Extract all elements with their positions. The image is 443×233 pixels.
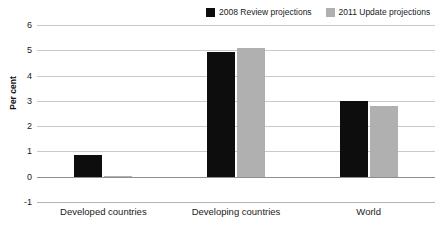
y-axis-tick-label: 3 bbox=[27, 96, 32, 106]
x-axis-category-label: Developed countries bbox=[60, 206, 147, 217]
x-axis-category-label: Developing countries bbox=[192, 206, 281, 217]
bar[interactable] bbox=[74, 155, 102, 176]
bar[interactable] bbox=[207, 52, 235, 177]
black-square-swatch bbox=[206, 8, 215, 17]
y-axis-tick-label: 6 bbox=[27, 20, 32, 30]
y-axis-tick-label: -1 bbox=[24, 197, 32, 207]
y-axis-tick-label: 1 bbox=[27, 146, 32, 156]
bar[interactable] bbox=[340, 101, 368, 177]
y-axis-tick-label: 4 bbox=[27, 71, 32, 81]
y-axis-tick-label: 5 bbox=[27, 45, 32, 55]
legend-label-2008: 2008 Review projections bbox=[219, 7, 312, 17]
legend-entry-2011[interactable]: 2011 Update projections bbox=[326, 7, 431, 17]
chart-legend: 2008 Review projections 2011 Update proj… bbox=[206, 7, 430, 17]
legend-entry-2008[interactable]: 2008 Review projections bbox=[206, 7, 312, 17]
bar-chart: 2008 Review projections 2011 Update proj… bbox=[0, 0, 443, 233]
y-axis-tick-label: 0 bbox=[27, 172, 32, 182]
gray-square-swatch bbox=[326, 8, 335, 17]
x-axis-category-labels: Developed countriesDeveloping countriesW… bbox=[37, 206, 435, 226]
gridline--1: -1 bbox=[37, 202, 435, 203]
bar[interactable] bbox=[237, 48, 265, 177]
legend-label-2011: 2011 Update projections bbox=[339, 7, 431, 17]
bar[interactable] bbox=[370, 106, 398, 177]
bar[interactable] bbox=[104, 176, 132, 177]
y-axis-tick-label: 2 bbox=[27, 121, 32, 131]
plot-area: 6543210-1 bbox=[37, 25, 435, 202]
bar-group-container bbox=[37, 25, 435, 202]
y-axis-title: Per cent bbox=[8, 63, 18, 123]
x-axis-category-label: World bbox=[356, 206, 381, 217]
